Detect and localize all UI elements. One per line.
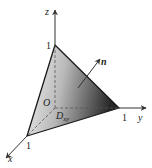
region-label-sub: xy [62,115,70,123]
z-axis-label: z [44,6,49,17]
x-axis-label: x [7,153,13,164]
normal-label: n [101,56,107,67]
x-tick-label: 1 [26,140,31,151]
z-tick-label: 1 [46,40,51,51]
origin-label: O [43,97,50,108]
y-axis-label: y [137,112,143,123]
y-tick-label: 1 [122,112,127,123]
plane-diagram: z 1 y 1 x 1 O n Dxy [0,0,152,168]
